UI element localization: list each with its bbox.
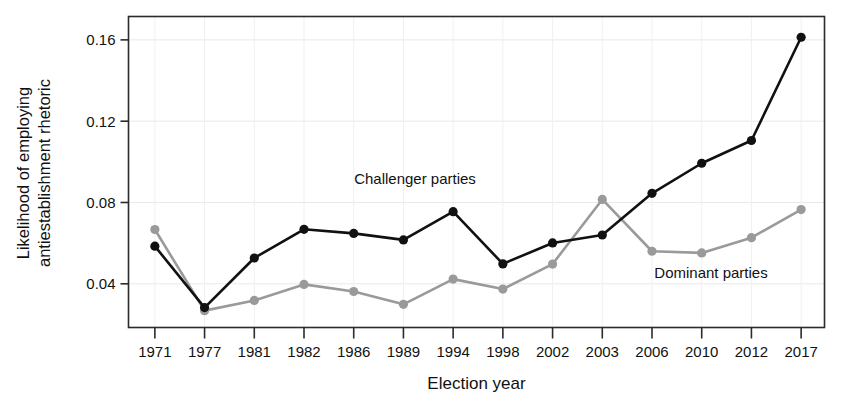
data-point — [797, 33, 806, 42]
y-tick-label: 0.16 — [86, 31, 115, 48]
data-point — [697, 248, 706, 257]
series-annotation-label: Challenger parties — [354, 170, 476, 187]
y-axis-label-line1: Likelihood of employing — [14, 86, 32, 258]
data-point — [548, 259, 557, 268]
data-point — [548, 238, 557, 247]
data-point — [250, 253, 259, 262]
x-tick-label: 1994 — [436, 343, 469, 360]
data-point — [498, 259, 507, 268]
data-point — [399, 235, 408, 244]
x-tick-label: 1981 — [238, 343, 271, 360]
data-point — [250, 296, 259, 305]
y-axis-label: Likelihood of employing antiestablishmen… — [6, 0, 62, 345]
data-point — [747, 233, 756, 242]
chart-figure: Likelihood of employing antiestablishmen… — [0, 0, 849, 412]
x-tick-label: 1982 — [287, 343, 320, 360]
y-tick-label: 0.08 — [86, 194, 115, 211]
data-point — [498, 284, 507, 293]
x-tick-label: 1971 — [138, 343, 171, 360]
data-point — [747, 136, 756, 145]
x-tick-label: 1986 — [337, 343, 370, 360]
y-axis-ticks: 0.040.080.120.16 — [86, 31, 128, 292]
y-axis-label-line2: antiestablishment rhetoric — [34, 78, 55, 266]
data-point — [449, 207, 458, 216]
x-tick-label: 1977 — [188, 343, 221, 360]
data-point — [299, 280, 308, 289]
data-point — [299, 225, 308, 234]
data-point — [399, 300, 408, 309]
data-point — [598, 195, 607, 204]
data-point — [449, 275, 458, 284]
y-tick-label: 0.04 — [86, 275, 115, 292]
data-point — [598, 230, 607, 239]
data-point — [797, 205, 806, 214]
x-tick-label: 2017 — [784, 343, 817, 360]
x-tick-label: 2010 — [685, 343, 718, 360]
series-dominant-parties — [150, 195, 805, 315]
x-axis-label: Election year — [128, 374, 825, 394]
data-point — [647, 247, 656, 256]
data-point — [697, 159, 706, 168]
x-tick-label: 2006 — [635, 343, 668, 360]
annotation-layer: Challenger partiesDominant parties — [354, 170, 768, 281]
data-point — [150, 225, 159, 234]
x-tick-label: 2012 — [735, 343, 768, 360]
x-tick-label: 1989 — [387, 343, 420, 360]
x-tick-label: 2002 — [536, 343, 569, 360]
x-tick-label: 1998 — [486, 343, 519, 360]
data-point — [349, 229, 358, 238]
line-chart-plot: 0.040.080.120.16 19711977198119821986198… — [0, 0, 849, 412]
series-annotation-label: Dominant parties — [654, 264, 767, 281]
x-axis-ticks: 1971197719811982198619891994199820022003… — [138, 328, 818, 360]
data-point — [647, 189, 656, 198]
data-point — [200, 303, 209, 312]
x-tick-label: 2003 — [586, 343, 619, 360]
data-point — [349, 287, 358, 296]
data-point — [150, 242, 159, 251]
y-tick-label: 0.12 — [86, 113, 115, 130]
